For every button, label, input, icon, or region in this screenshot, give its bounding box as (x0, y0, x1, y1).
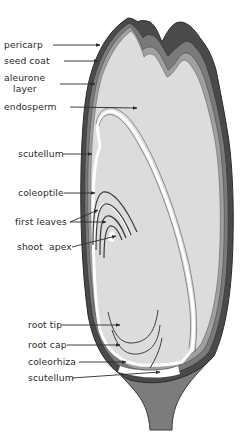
label-scutellum-top: scutellum (18, 149, 64, 159)
label-first-leaves: first leaves (15, 217, 67, 227)
label-coleorhiza: coleorhiza (28, 357, 76, 367)
label-aleurone: aleurone (4, 73, 45, 83)
label-pericarp: pericarp (4, 40, 43, 50)
label-shoot-apex: shoot apex (17, 242, 72, 252)
label-root-cap: root cap (28, 340, 67, 350)
label-seed-coat: seed coat (4, 56, 50, 66)
label-scutellum-bottom: scutellum (28, 373, 74, 383)
label-root-tip: root tip (28, 320, 62, 330)
label-endosperm: endosperm (4, 102, 57, 112)
label-aleurone-layer: layer (13, 84, 37, 94)
label-coleoptile: coleoptile (18, 188, 64, 198)
